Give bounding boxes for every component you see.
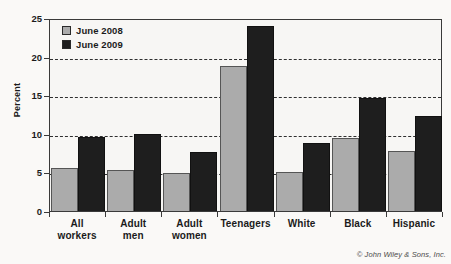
x-tick-mark <box>442 212 443 217</box>
bar-2008 <box>107 170 134 211</box>
bar-2009 <box>190 152 217 211</box>
bar-2009 <box>415 116 442 211</box>
x-tick-label: White <box>274 218 330 230</box>
chart-title: June 2008 and June 2009 <box>0 0 451 2</box>
bar-2009 <box>134 134 161 211</box>
x-tick-mark <box>330 212 331 217</box>
x-tick-label: Adult women <box>161 218 217 241</box>
bar-2009 <box>303 143 330 211</box>
bar-2008 <box>332 138 359 211</box>
plot-area: June 2008June 2009 <box>49 19 442 212</box>
y-tick-label: 25 <box>8 13 42 24</box>
bar-2008 <box>276 172 303 211</box>
bar-2009 <box>78 137 105 211</box>
chart-page: June 2008 and June 2009 Percent 05101520… <box>0 0 451 264</box>
x-tick-label: Teenagers <box>217 218 273 230</box>
bar-2009 <box>359 98 386 211</box>
y-tick-label: 20 <box>8 52 42 63</box>
x-tick-mark <box>386 212 387 217</box>
x-tick-mark <box>49 212 50 217</box>
x-tick-mark <box>105 212 106 217</box>
x-tick-mark <box>274 212 275 217</box>
x-tick-label: Hispanic <box>386 218 442 230</box>
bar-2008 <box>220 66 247 211</box>
y-axis-label: Percent <box>12 65 22 135</box>
x-tick-label: All workers <box>49 218 105 241</box>
bar-2008 <box>388 151 415 211</box>
bar-2009 <box>247 26 274 211</box>
x-tick-mark <box>217 212 218 217</box>
bar-2008 <box>51 168 78 211</box>
x-tick-mark <box>161 212 162 217</box>
bars-layer <box>50 20 441 211</box>
bar-2008 <box>163 173 190 211</box>
y-tick-label: 0 <box>8 206 42 217</box>
y-tick-label: 5 <box>8 167 42 178</box>
copyright-credit: © John Wiley & Sons, Inc. <box>357 250 446 259</box>
x-tick-label: Black <box>330 218 386 230</box>
x-tick-label: Adult men <box>105 218 161 241</box>
